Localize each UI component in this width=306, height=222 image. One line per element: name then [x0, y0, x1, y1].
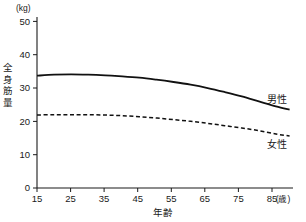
x-tick-label-65: 65 [200, 193, 211, 204]
x-tick-label-45: 45 [132, 193, 143, 204]
y-tick-label-30: 30 [19, 82, 30, 93]
series-line-female [37, 115, 290, 136]
y-tick-label-40: 40 [19, 49, 30, 60]
y-tick-label-0: 0 [25, 182, 30, 193]
y-tick-label-50: 50 [19, 16, 30, 27]
x-axis-title: 年齢 [153, 207, 173, 218]
x-axis-unit-label: (歳) [276, 194, 291, 204]
x-tick-label-75: 75 [233, 193, 244, 204]
x-axis-tick-labels: 15 25 35 45 55 65 75 85 (歳) [32, 193, 291, 204]
y-tick-label-20: 20 [19, 116, 30, 127]
x-axis-ticks [37, 188, 272, 192]
x-tick-label-35: 35 [99, 193, 110, 204]
series-label-male: 男性 [267, 93, 287, 105]
y-tick-label-10: 10 [19, 149, 30, 160]
series-line-male [37, 74, 290, 109]
series-label-female: 女性 [267, 138, 287, 150]
x-tick-label-55: 55 [166, 193, 177, 204]
line-chart: (kg) 50 40 30 20 10 0 [0, 0, 306, 222]
y-axis-tick-labels: 50 40 30 20 10 0 [19, 16, 30, 194]
y-axis-unit-label: (kg) [16, 3, 31, 13]
x-tick-label-15: 15 [32, 193, 43, 204]
chart-container: 全 身 筋 量 (kg) 50 40 30 20 10 0 [0, 0, 306, 222]
x-tick-label-25: 25 [65, 193, 76, 204]
y-axis-ticks [33, 21, 37, 188]
